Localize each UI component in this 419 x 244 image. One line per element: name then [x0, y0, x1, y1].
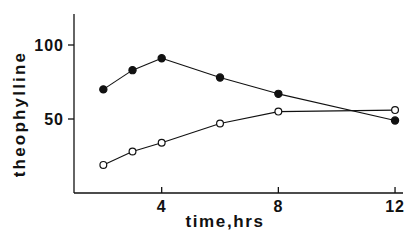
filled-circle-marker: [391, 117, 398, 124]
y-tick-label: 100: [34, 37, 64, 54]
filled-circle-marker: [158, 55, 165, 62]
y-tick-label: 50: [44, 111, 64, 128]
x-ticks: 4812: [157, 187, 405, 215]
series-segment: [220, 112, 278, 124]
series-segment: [162, 58, 220, 77]
open-circle-marker: [392, 107, 399, 114]
filled-circle-marker: [216, 74, 223, 81]
series-segment: [133, 143, 162, 152]
series-segment: [103, 70, 132, 89]
y-axis-label: theophylline: [9, 34, 31, 194]
x-tick-label: 12: [385, 198, 405, 215]
filled-circle-marker: [275, 90, 282, 97]
series-segment: [220, 78, 278, 94]
open-circle-marker: [129, 148, 136, 155]
axes: [74, 14, 403, 193]
line-chart: 50100 4812: [0, 0, 419, 244]
open-circle-marker: [100, 161, 107, 168]
series-segment: [133, 58, 162, 70]
open-circle-marker: [217, 120, 224, 127]
filled-circle-marker: [100, 86, 107, 93]
series-segment: [103, 152, 132, 165]
y-ticks: 50100: [34, 37, 74, 128]
filled-circle-marker: [129, 67, 136, 74]
series-segment: [278, 94, 395, 121]
series-segment: [162, 123, 220, 142]
series-segment: [278, 110, 395, 111]
series-lines: [103, 58, 395, 165]
open-circle-marker: [158, 139, 165, 146]
open-circle-marker: [275, 108, 282, 115]
x-axis-label: time,hrs: [160, 212, 290, 232]
